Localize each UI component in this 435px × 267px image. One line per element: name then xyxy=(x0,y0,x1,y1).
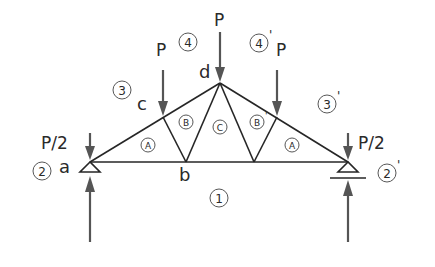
zone-3-prime: 3 ' xyxy=(318,89,340,113)
node-label-a: a xyxy=(59,156,70,177)
zone-4-prime: 4 ' xyxy=(250,28,272,52)
load-label-right-panel: P xyxy=(276,40,286,60)
zone-1: 1 xyxy=(210,189,228,207)
load-label-apex: P xyxy=(214,10,224,30)
node-label-b: b xyxy=(179,164,190,185)
node-label-d: d xyxy=(199,61,210,82)
svg-text:A: A xyxy=(289,141,296,151)
svg-text:1: 1 xyxy=(215,192,223,206)
load-label-c: P xyxy=(156,40,166,60)
truss-diagram: P/2 P P P P/2 a b c d 1 2 2 ' 3 3 ' 4 4 … xyxy=(0,0,435,267)
right-roller-support xyxy=(330,162,366,178)
arrow-load-left-end xyxy=(85,133,95,160)
svg-text:2: 2 xyxy=(383,167,391,181)
svg-text:3: 3 xyxy=(118,84,126,98)
arrow-load-right-end xyxy=(343,133,353,160)
top-chord-left xyxy=(90,83,220,162)
panel-A-left: A xyxy=(141,138,155,152)
panel-A-right: A xyxy=(285,138,299,152)
arrow-load-right-panel xyxy=(272,70,282,116)
svg-text:B: B xyxy=(254,118,260,128)
zone-2-prime: 2 ' xyxy=(378,158,400,182)
load-label-left-end: P/2 xyxy=(41,133,68,153)
arrow-load-c xyxy=(158,70,168,116)
svg-text:': ' xyxy=(337,89,340,103)
svg-text:4: 4 xyxy=(255,37,263,51)
arrow-load-apex xyxy=(215,32,225,82)
svg-text:C: C xyxy=(217,123,223,133)
arrow-reaction-right xyxy=(343,180,353,242)
panel-B-right: B ' xyxy=(250,111,267,129)
svg-text:A: A xyxy=(145,141,152,151)
zone-2: 2 xyxy=(33,162,51,180)
arrow-reaction-left xyxy=(85,176,95,242)
zone-4: 4 xyxy=(179,33,197,51)
svg-text:4: 4 xyxy=(184,36,192,50)
svg-text:3: 3 xyxy=(323,98,331,112)
svg-text:': ' xyxy=(269,28,272,42)
zone-3: 3 xyxy=(113,81,131,99)
svg-text:': ' xyxy=(265,111,267,121)
svg-text:': ' xyxy=(397,158,400,172)
load-label-right-end: P/2 xyxy=(358,133,385,153)
node-label-c: c xyxy=(137,93,147,114)
left-pin-support xyxy=(80,162,100,172)
panel-C: C xyxy=(213,120,227,134)
svg-text:2: 2 xyxy=(38,165,46,179)
svg-text:B: B xyxy=(183,118,189,128)
panel-B-left: B xyxy=(179,115,193,129)
